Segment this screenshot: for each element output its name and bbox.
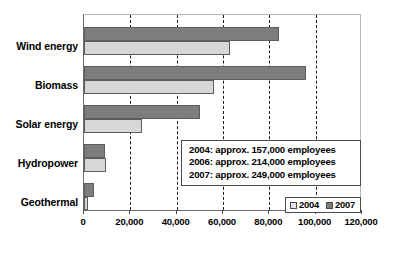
annotation-line-2006: 2006: approx. 214,000 employees [189,156,354,168]
bar-solar-energy-2004 [84,119,142,133]
y-axis-label-hydropower: Hydropower [0,158,78,169]
bar-hydropower-2004 [84,158,106,172]
x-tick-0 [83,210,84,214]
legend-label-2004: 2004 [299,200,319,210]
bar-wind-energy-2004 [84,41,230,55]
x-tick-60000 [222,210,223,214]
legend-entry-2007: 2007 [326,200,355,210]
bar-solar-energy-2007 [84,105,200,119]
x-tick-120000 [361,210,362,214]
bar-chart-figure: Wind energy Biomass Solar energy Hydropo… [0,0,395,258]
bar-hydropower-2007 [84,144,105,158]
y-axis-label-biomass: Biomass [0,80,78,91]
x-tick-label-0: 0 [80,216,85,227]
y-axis-label-wind-energy: Wind energy [0,41,78,52]
annotation-line-2004: 2004: approx. 157,000 employees [189,144,354,156]
chart-legend: 2004 2007 [285,197,361,213]
annotation-box: 2004: approx. 157,000 employees 2006: ap… [181,140,361,186]
bar-geothermal-2004 [84,197,88,210]
y-axis-label-geothermal: Geothermal [0,197,78,208]
x-tick-40000 [176,210,177,214]
x-tick-label-40000: 40,000 [162,216,190,227]
x-tick-label-60000: 60,000 [208,216,236,227]
x-tick-label-80000: 80,000 [254,216,282,227]
legend-swatch-icon-2007 [326,202,333,209]
legend-label-2007: 2007 [335,200,355,210]
bar-biomass-2004 [84,80,214,94]
legend-entry-2004: 2004 [290,200,319,210]
x-tick-label-20000: 20,000 [115,216,143,227]
x-tick-label-120000: 120,000 [345,216,378,227]
y-axis-label-solar-energy: Solar energy [0,119,78,130]
legend-swatch-icon-2004 [290,202,297,209]
x-tick-80000 [268,210,269,214]
annotation-line-2007: 2007: approx. 249,000 employees [189,169,354,181]
bar-wind-energy-2007 [84,27,279,41]
x-tick-20000 [129,210,130,214]
y-axis-category-labels: Wind energy Biomass Solar energy Hydropo… [0,14,78,210]
x-tick-label-100000: 100,000 [298,216,331,227]
bar-biomass-2007 [84,66,306,80]
bar-geothermal-2007 [84,183,94,197]
